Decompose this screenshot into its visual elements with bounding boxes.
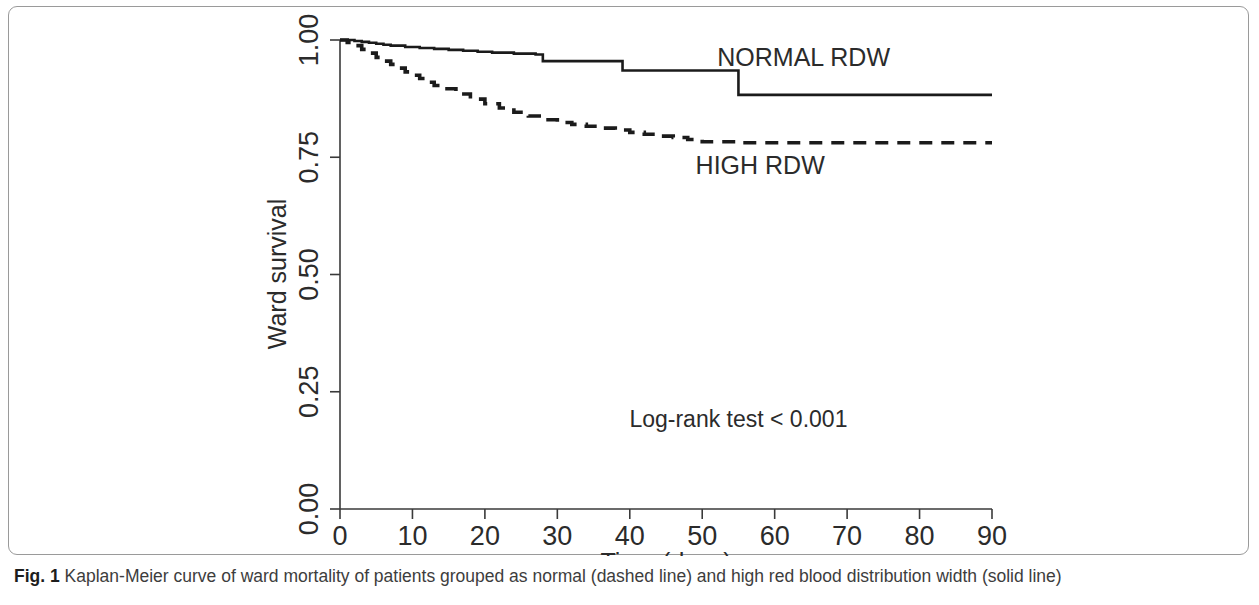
figure-root: 0.000.250.500.751.00 0102030405060708090…	[0, 0, 1259, 605]
caption-label: Fig. 1	[14, 566, 60, 586]
series-label-normal-rdw: NORMAL RDW	[717, 43, 890, 71]
chart-svg: 0.000.250.500.751.00 0102030405060708090…	[0, 0, 1259, 556]
kaplan-meier-chart: 0.000.250.500.751.00 0102030405060708090…	[0, 0, 1259, 556]
annotations-group: Log-rank test < 0.001	[629, 406, 847, 432]
x-tick-label: 20	[470, 521, 500, 551]
chart-annotation: Log-rank test < 0.001	[629, 406, 847, 432]
x-axis-ticks: 0102030405060708090	[332, 509, 1007, 551]
x-tick-label: 70	[832, 521, 862, 551]
y-axis-title: Ward survival	[263, 199, 291, 350]
y-tick-label: 0.50	[294, 248, 324, 301]
y-tick-label: 0.25	[294, 365, 324, 418]
y-tick-label: 1.00	[294, 14, 324, 67]
series-labels-group: NORMAL RDWHIGH RDW	[696, 43, 891, 179]
caption-text: Kaplan-Meier curve of ward mortality of …	[65, 566, 1062, 586]
series-label-high-rdw: HIGH RDW	[696, 151, 826, 179]
x-tick-label: 90	[977, 521, 1007, 551]
figure-caption: Fig. 1 Kaplan-Meier curve of ward mortal…	[14, 566, 1249, 588]
x-tick-label: 30	[542, 521, 572, 551]
y-axis-ticks: 0.000.250.500.751.00	[294, 14, 340, 536]
x-tick-label: 80	[905, 521, 935, 551]
series-group	[340, 40, 992, 143]
axes-group	[340, 40, 992, 509]
x-tick-label: 60	[760, 521, 790, 551]
series-line-high-rdw	[340, 40, 992, 143]
x-tick-label: 50	[687, 521, 717, 551]
y-tick-label: 0.00	[294, 483, 324, 536]
x-tick-label: 0	[332, 521, 347, 551]
y-tick-label: 0.75	[294, 131, 324, 184]
x-tick-label: 10	[397, 521, 427, 551]
x-axis-title: Time (days)	[600, 548, 731, 556]
x-tick-label: 40	[615, 521, 645, 551]
